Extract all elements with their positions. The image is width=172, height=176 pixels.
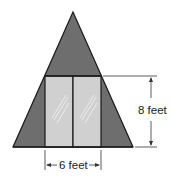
a-frame-diagram: 8 feet 6 feet (0, 0, 172, 176)
height-label: 8 feet (138, 104, 168, 116)
width-label: 6 feet (59, 159, 89, 171)
